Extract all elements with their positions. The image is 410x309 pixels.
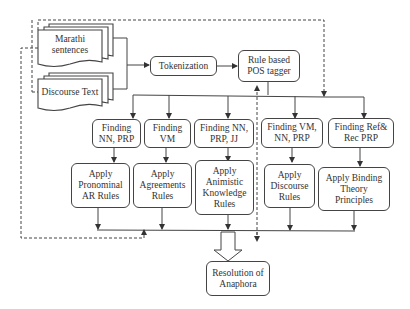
- finding-vm-box: Finding VM: [144, 119, 191, 148]
- apply-label: Principles: [335, 195, 373, 206]
- finding-label: PRP, JJ: [210, 134, 238, 145]
- apply-pronominal-ar-rules-box: Apply Pronominal AR Rules: [71, 163, 130, 208]
- apply-discourse-rules-box: Apply Discourse Rules: [264, 164, 315, 208]
- finding-label: NN, PRP: [274, 133, 309, 144]
- apply-label: Knowledge: [203, 188, 247, 199]
- finding-nn-prp-jj-box: Finding NN, PRP, JJ: [194, 119, 254, 148]
- finding-ref-rec-prp-box: Finding Ref& Rec PRP: [328, 118, 394, 148]
- finding-label: Finding Ref&: [334, 122, 387, 133]
- finding-label: Finding VM,: [267, 122, 316, 133]
- anaphora-resolution-diagram: Marathi sentences Discourse Text Tokeniz…: [0, 0, 410, 309]
- apply-label: Rules: [279, 192, 301, 203]
- finding-label: Finding: [153, 123, 183, 134]
- marathi-label-line1: Marathi: [38, 34, 102, 45]
- pos-tagger-line1: Rule based: [248, 55, 290, 66]
- finding-label: Finding: [102, 123, 132, 134]
- finding-label: Rec PRP: [344, 133, 378, 144]
- finding-label: NN, PRP: [99, 134, 134, 145]
- output-label: Resolution of: [212, 268, 263, 279]
- apply-label: Agreements: [140, 180, 186, 191]
- pos-tagger-box: Rule based POS tagger: [238, 50, 300, 82]
- tokenization-box: Tokenization: [150, 56, 217, 76]
- hollow-down-arrow-icon: [214, 232, 242, 261]
- marathi-sentences-input: Marathi sentences: [38, 34, 102, 56]
- apply-label: Apply: [278, 170, 302, 181]
- apply-label: Discourse: [271, 181, 309, 192]
- finding-label: VM: [160, 134, 175, 145]
- finding-label: Finding NN,: [200, 123, 248, 134]
- apply-label: Rules: [152, 191, 174, 202]
- pos-tagger-line2: POS tagger: [247, 66, 291, 77]
- apply-label: AR Rules: [82, 191, 119, 202]
- apply-label: Apply: [213, 166, 237, 177]
- apply-label: Apply: [89, 169, 113, 180]
- apply-label: Theory: [340, 184, 367, 195]
- apply-binding-theory-principles-box: Apply Binding Theory Principles: [318, 167, 390, 211]
- finding-vm-nn-prp-box: Finding VM, NN, PRP: [261, 118, 323, 148]
- apply-label: Apply: [151, 169, 175, 180]
- marathi-label-line2: sentences: [38, 45, 102, 56]
- apply-agreements-rules-box: Apply Agreements Rules: [133, 163, 192, 208]
- apply-label: Animistic: [206, 177, 243, 188]
- resolution-of-anaphora-box: Resolution of Anaphora: [206, 261, 270, 296]
- discourse-text-input: Discourse Text: [38, 87, 102, 98]
- output-label: Anaphora: [219, 279, 256, 290]
- apply-label: Apply Binding: [326, 173, 383, 184]
- apply-animistic-knowledge-rules-box: Apply Animistic Knowledge Rules: [195, 160, 254, 215]
- apply-label: Rules: [214, 199, 236, 210]
- finding-nn-prp-box: Finding NN, PRP: [92, 119, 141, 148]
- apply-label: Pronominal: [78, 180, 122, 191]
